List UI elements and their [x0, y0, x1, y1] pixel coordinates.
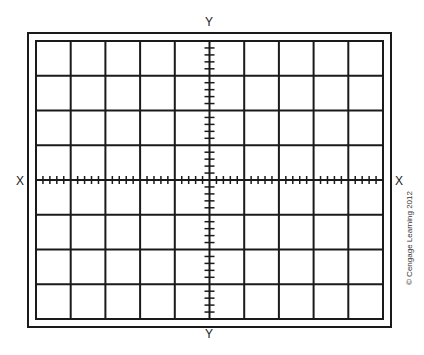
oscilloscope-graticule — [0, 0, 424, 355]
copyright-notice: © Cengage Learning 2012 — [405, 191, 414, 285]
